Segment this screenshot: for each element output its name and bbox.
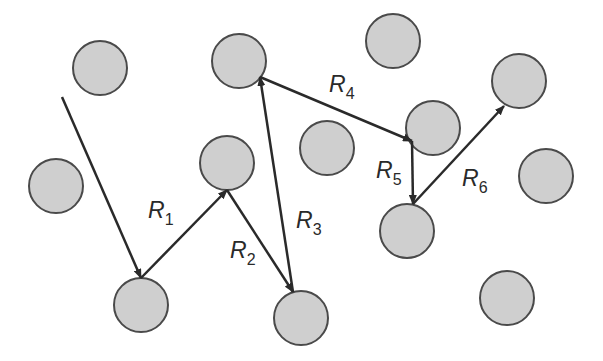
scatterer-circle [114,278,168,332]
path-arrow [412,141,413,204]
scatterer-circle [200,136,254,190]
scatterer-circle [29,159,83,213]
path-arrow [260,77,293,292]
random-walk-diagram: R1R2R3R4R5R6 [0,0,603,361]
segment-label: R6 [462,165,488,196]
scatterer-circle [380,204,434,258]
scatterer-circle [300,121,354,175]
scatterer-circle [480,271,534,325]
scatterer-circle [366,14,420,68]
segment-label: R5 [376,157,402,188]
scatterer-circle [492,54,546,108]
scatterer-circle [519,149,573,203]
scatterer-circle [212,34,266,88]
scatterer-circle [73,41,127,95]
segment-label: R2 [230,237,256,268]
scatterer-circle [406,101,460,155]
segment-label: R1 [148,197,174,228]
segment-label: R3 [296,207,322,238]
scatterer-group [29,14,573,345]
diagram-canvas: R1R2R3R4R5R6 [0,0,603,361]
scatterer-circle [274,291,328,345]
segment-label: R4 [329,71,355,102]
